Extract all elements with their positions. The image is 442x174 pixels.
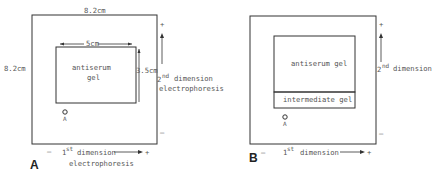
arrow-up-icon [379, 33, 383, 38]
dim1-sup: st [66, 145, 74, 152]
immunoelectrophoresis-diagram: 8.2cm 8.2cm antiserum gel 5cm 3.5cm A + … [0, 0, 442, 174]
anode-plus-2nd: + [160, 20, 165, 29]
dim2-word: dimension [174, 74, 213, 83]
dim2-number: 2 [157, 75, 161, 84]
dim2-sub: electrophoresis [159, 84, 224, 93]
arrow-up-icon [160, 33, 164, 38]
arrow-right-icon [138, 150, 143, 154]
dim2-number: 2 [377, 65, 381, 74]
panel-a-label: A [30, 158, 39, 172]
arrow-right-icon [128, 43, 132, 46]
intermediate-gel-label: intermediate gel [283, 95, 352, 104]
plate-height-label: 8.2cm [4, 64, 26, 73]
arrow-left-icon [60, 43, 64, 46]
panel-b: antiserum gel intermediate gel A + 2 nd … [249, 16, 432, 165]
dim2-sup: nd [382, 62, 390, 69]
well-label: A [283, 120, 287, 127]
anode-plus-1st: + [367, 148, 372, 157]
cathode-minus-1st: – [261, 148, 266, 157]
sample-well-icon [283, 115, 287, 119]
cathode-minus-1st: – [47, 147, 52, 156]
antiserum-gel-label: antiserum [72, 63, 111, 72]
gel-plate-outline [250, 16, 376, 144]
arrow-up-icon [138, 49, 141, 53]
antiserum-gel-label-2: gel [87, 73, 100, 82]
gel-width-label: 5cm [86, 39, 99, 48]
dim2-word: dimension [393, 64, 432, 73]
antiserum-gel-label: antiserum gel [291, 59, 347, 68]
dim2-sup: nd [162, 72, 170, 79]
gel-height-label: 3.5cm [136, 66, 158, 75]
sample-well-icon [63, 110, 67, 114]
panel-b-label: B [249, 151, 258, 165]
dim1-sub: electrophoresis [69, 159, 134, 168]
dim1-word: dimension [77, 148, 116, 157]
anode-plus-2nd: + [379, 20, 384, 29]
cathode-minus-2nd: – [160, 128, 165, 137]
plate-width-label: 8.2cm [84, 6, 106, 15]
panel-a: 8.2cm 8.2cm antiserum gel 5cm 3.5cm A + … [4, 6, 224, 172]
dim1-sup: st [287, 145, 295, 152]
well-label: A [63, 115, 67, 122]
cathode-minus-2nd: – [379, 129, 384, 138]
anode-plus-1st: + [145, 148, 150, 157]
arrow-right-icon [360, 150, 365, 154]
dim1-word: dimension [300, 148, 339, 157]
